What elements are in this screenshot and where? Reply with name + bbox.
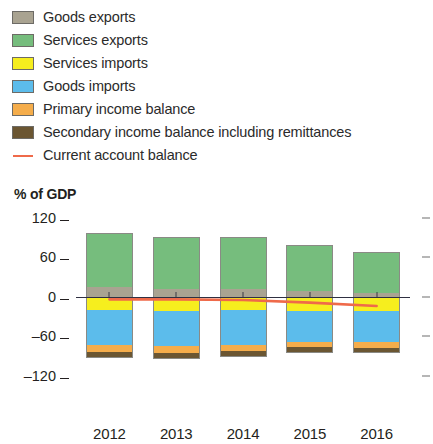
legend-item: Services imports [12,52,433,75]
bar-segment [286,245,333,291]
bar-segment [153,346,200,353]
legend-swatch-icon [12,11,34,24]
legend-item-label: Goods exports [43,10,135,25]
y-axis-tick-label: –60 [32,328,69,344]
bar-segment [286,311,333,341]
bar-segment [220,297,267,310]
bar-segment [86,352,133,358]
bar-segment [220,310,267,345]
y-axis-tick-label: 120 [32,210,69,226]
legend-item: Current account balance [12,144,433,167]
bar-segment [220,237,267,290]
x-axis-tick-label: 2014 [227,425,260,442]
x-axis-tick-label: 2015 [294,425,327,442]
y-axis-right-tick [422,257,430,258]
legend-item-label: Services exports [43,33,148,48]
y-axis-title: % of GDP [14,186,76,202]
y-axis-tick-label: –120 [24,368,69,384]
bar-segment [220,351,267,357]
bar-2013 [153,211,200,389]
y-axis-tick-label: 0 [48,289,69,305]
x-axis-tick-label: 2012 [93,425,126,442]
bar-segment [153,297,200,311]
bar-segment [286,347,333,352]
legend-item-label: Secondary income balance including remit… [43,125,351,140]
legend-item: Goods exports [12,6,433,29]
bar-segment [353,311,400,342]
y-axis-tick-label: 60 [40,249,69,265]
legend-item-label: Goods imports [43,79,135,94]
bar-segment [86,345,133,352]
chart-area: % of GDP 120600–60–120201220132014201520… [0,182,433,444]
legend-swatch-icon [12,57,34,70]
bar-2012 [86,211,133,389]
bar-segment [353,348,400,353]
legend-swatch-icon [12,126,34,139]
bar-segment [86,310,133,346]
x-axis-tick-label: 2016 [360,425,393,442]
legend-item-label: Current account balance [43,148,198,163]
legend-item: Secondary income balance including remit… [12,121,433,144]
bar-2014 [220,211,267,389]
bar-segment [153,237,200,289]
bar-segment [220,345,267,352]
legend-item-label: Services imports [43,56,148,71]
bar-segment [286,297,333,312]
bar-segment [153,311,200,347]
legend-item: Services exports [12,29,433,52]
legend-item: Goods imports [12,75,433,98]
bar-segment [86,297,133,310]
y-axis-right-tick [422,217,430,218]
legend-item: Primary income balance [12,98,433,121]
bar-segment [353,252,400,293]
x-axis-tick-label: 2013 [160,425,193,442]
chart-legend: Goods exportsServices exportsServices im… [0,0,433,182]
bar-segment [353,297,400,312]
plot-area: 120600–60–12020122013201420152016 [76,211,410,389]
bar-segment [86,233,133,288]
bar-segment [153,353,200,359]
zero-line [76,297,410,298]
legend-swatch-icon [12,34,34,47]
legend-item-label: Primary income balance [43,102,195,117]
bar-2015 [286,211,333,389]
bar-2016 [353,211,400,389]
legend-swatch-icon [12,80,34,93]
y-axis-right-tick [422,296,430,297]
legend-line-marker-icon [13,155,33,157]
legend-swatch-icon [12,103,34,116]
y-axis-right-tick [422,336,430,337]
y-axis-right-tick [422,375,430,376]
